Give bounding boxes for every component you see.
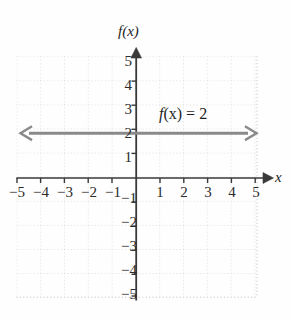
- x-tick-label-1: 1: [153, 185, 167, 200]
- y-tick-label-4: 4: [120, 78, 132, 93]
- x-axis-label: x: [275, 170, 282, 185]
- function-annotation: f(x) = 2: [159, 106, 207, 122]
- y-tick-label-5: 5: [120, 54, 132, 69]
- graph-figure: f(x) x f(x) = 2 5 4 3 2 1 −1 −2 −3 −4 −5…: [0, 0, 292, 319]
- y-tick-label-neg4: −4: [119, 263, 137, 278]
- x-tick-label-5: 5: [249, 185, 263, 200]
- function-annotation-arg: (x): [163, 105, 182, 122]
- y-tick-label-1: 1: [120, 150, 132, 165]
- x-tick-label-2: 2: [177, 185, 191, 200]
- y-tick-label-neg5: −5: [119, 287, 137, 302]
- x-tick-label-3: 3: [201, 185, 215, 200]
- function-annotation-eq: = 2: [182, 105, 207, 122]
- x-tick-label-4: 4: [225, 185, 239, 200]
- y-tick-label-neg3: −3: [119, 239, 137, 254]
- y-tick-label-2: 2: [120, 126, 132, 141]
- y-axis-label: f(x): [118, 24, 139, 39]
- x-tick-label-neg3: −3: [54, 185, 76, 200]
- x-tick-label-neg4: −4: [30, 185, 52, 200]
- y-tick-label-3: 3: [120, 102, 132, 117]
- x-tick-label-neg5: −5: [6, 185, 28, 200]
- coordinate-plane-svg: [0, 0, 292, 319]
- x-tick-label-neg2: −2: [78, 185, 100, 200]
- y-tick-label-neg2: −2: [119, 215, 137, 230]
- x-tick-label-neg1: −1: [102, 185, 124, 200]
